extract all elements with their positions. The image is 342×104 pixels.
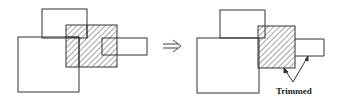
trimming-diagram: Trimmed xyxy=(0,0,342,104)
big-square xyxy=(197,38,259,93)
trimmed-label: Trimmed xyxy=(276,86,312,96)
hatched-rectangle xyxy=(66,25,117,67)
small-right-rectangle xyxy=(295,39,324,56)
hatched-rectangle xyxy=(258,26,295,68)
implies-arrow-icon xyxy=(163,40,181,52)
after-diagram xyxy=(197,10,324,93)
before-diagram xyxy=(18,9,147,92)
